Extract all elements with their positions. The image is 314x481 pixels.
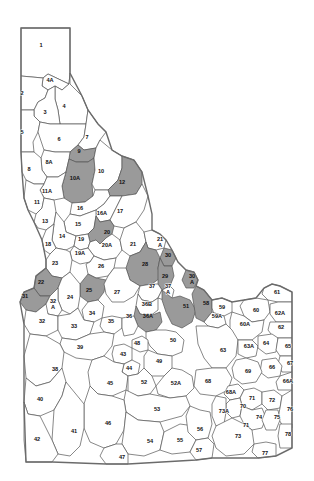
unit-label-38: 38 <box>52 366 58 372</box>
unit-label-57: 57 <box>196 447 202 453</box>
unit-label-54: 54 <box>147 438 154 444</box>
unit-label-10: 10 <box>98 168 104 174</box>
unit-label-75: 75 <box>274 414 280 420</box>
unit-label-37: 37 <box>149 283 155 289</box>
unit-label-33: 33 <box>71 323 77 329</box>
unit-label-23: 23 <box>52 260 58 266</box>
unit-label-66A: 66A <box>283 378 293 384</box>
unit-label-19A: 19A <box>75 250 85 256</box>
unit-label-39: 39 <box>77 344 83 350</box>
unit-label-5: 5 <box>20 129 23 135</box>
idaho-hunting-unit-map: 14A24356798A810A101211A111616A1713152014… <box>0 0 314 481</box>
unit-label-36: 36 <box>126 313 132 319</box>
unit-label-25: 25 <box>86 287 92 293</box>
unit-label-78: 78 <box>285 431 291 437</box>
unit-label-10A: 10A <box>70 175 80 181</box>
unit-label-26: 26 <box>98 263 104 269</box>
unit-label-16: 16 <box>77 205 83 211</box>
unit-label-6: 6 <box>57 136 60 142</box>
unit-label-65: 65 <box>285 343 291 349</box>
unit-label-17: 17 <box>117 208 123 214</box>
unit-label-41: 41 <box>71 428 77 434</box>
unit-label-30: 30 <box>165 252 171 258</box>
unit-label-74: 74 <box>256 414 263 420</box>
unit-label-62A: 62A <box>275 310 285 316</box>
unit-label-3: 3 <box>43 109 46 115</box>
unit-label-20A: 20A <box>102 242 112 248</box>
unit-label-62: 62 <box>278 324 284 330</box>
unit-label-63A: 63A <box>244 343 254 349</box>
unit-label-46: 46 <box>105 420 111 426</box>
unit-label-66: 66 <box>269 364 275 370</box>
unit-label-49: 49 <box>156 358 162 364</box>
unit-label-52A: 52A <box>171 380 181 386</box>
unit-label-35: 35 <box>108 318 114 324</box>
unit-label-43: 43 <box>120 351 126 357</box>
unit-label-11: 11 <box>34 199 40 205</box>
unit-label-34: 34 <box>89 310 96 316</box>
unit-label-69: 69 <box>245 368 251 374</box>
unit-label-67: 67 <box>287 360 293 366</box>
unit-label-2: 2 <box>20 90 23 96</box>
unit-label-51: 51 <box>183 303 189 309</box>
unit-label-13: 13 <box>42 218 48 224</box>
unit-label-4A: 4A <box>46 77 53 83</box>
unit-label-1: 1 <box>39 42 42 48</box>
unit-label-31: 31 <box>22 293 28 299</box>
unit-label-72: 72 <box>269 397 275 403</box>
unit-label-45: 45 <box>107 380 113 386</box>
unit-label-50: 50 <box>170 337 176 343</box>
unit-label-68A: 68A <box>226 389 236 395</box>
unit-label-61: 61 <box>274 289 280 295</box>
unit-label-36A: 36A <box>143 313 153 319</box>
unit-label-59A: 59A <box>212 313 222 319</box>
unit-label-73A: 73A <box>219 408 229 414</box>
unit-label-15: 15 <box>75 221 81 227</box>
unit-label-21: 21 <box>130 241 136 247</box>
unit-label-71: 71 <box>249 395 255 401</box>
unit-label-29: 29 <box>162 273 168 279</box>
unit-label-60: 60 <box>253 307 259 313</box>
unit-label-63: 63 <box>220 347 226 353</box>
unit-label-68: 68 <box>205 378 211 384</box>
unit-label-32: 32 <box>39 318 45 324</box>
unit-label-12: 12 <box>119 179 125 185</box>
unit-label-77: 77 <box>262 450 268 456</box>
unit-label-71b: 71 <box>243 422 249 428</box>
unit-label-56: 56 <box>197 426 203 432</box>
idaho-unit-map-container: 14A24356798A810A101211A111616A1713152014… <box>0 0 314 481</box>
unit-label-20: 20 <box>104 229 110 235</box>
unit-label-8: 8 <box>27 166 30 172</box>
unit-label-64: 64 <box>263 340 270 346</box>
unit-label-53: 53 <box>154 406 160 412</box>
unit-label-8A: 8A <box>45 159 52 165</box>
unit-label-70: 70 <box>240 403 246 409</box>
unit-region-46[interactable] <box>84 386 126 448</box>
unit-label-9: 9 <box>77 148 80 154</box>
unit-label-7: 7 <box>85 134 88 140</box>
unit-label-76: 76 <box>287 406 293 412</box>
unit-label-24: 24 <box>67 294 74 300</box>
unit-label-42: 42 <box>34 436 40 442</box>
unit-label-16A: 16A <box>97 210 107 216</box>
unit-label-22: 22 <box>38 279 44 285</box>
unit-label-27: 27 <box>114 289 120 295</box>
unit-label-47: 47 <box>119 454 125 460</box>
unit-label-48: 48 <box>134 340 140 346</box>
unit-label-36B: 36B <box>142 301 152 307</box>
unit-label-73: 73 <box>235 433 241 439</box>
unit-label-28: 28 <box>142 261 148 267</box>
unit-label-18: 18 <box>45 241 51 247</box>
unit-label-44: 44 <box>126 365 133 371</box>
unit-label-40: 40 <box>37 396 43 402</box>
unit-label-19: 19 <box>78 236 84 242</box>
unit-label-52: 52 <box>141 379 147 385</box>
unit-label-58: 58 <box>203 300 209 306</box>
unit-region-63[interactable] <box>196 324 238 368</box>
unit-label-11A: 11A <box>42 188 52 194</box>
unit-label-55: 55 <box>177 437 183 443</box>
unit-region-25[interactable] <box>80 274 106 302</box>
unit-label-14: 14 <box>59 233 66 239</box>
unit-label-59: 59 <box>219 304 225 310</box>
unit-label-60A: 60A <box>240 321 250 327</box>
